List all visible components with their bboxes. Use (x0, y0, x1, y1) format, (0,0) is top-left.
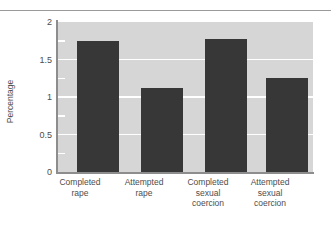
x-tick-line-1: Attempted (111, 177, 177, 188)
x-tick-line-2: sexual (237, 188, 303, 199)
bar-completed-rape (77, 41, 119, 172)
x-tick-line-3: coercion (175, 198, 241, 209)
x-tick-label-completed-rape: Completed rape (47, 177, 113, 198)
x-tick-line-2: rape (111, 188, 177, 199)
y-axis-title: Percentage (6, 67, 15, 137)
y-tick-label-0: 0 (6, 168, 52, 177)
x-axis-baseline (56, 172, 314, 174)
bar-chart-figure: 2 1.5 1 0.5 0 Percentage Completed rape … (0, 0, 331, 234)
x-tick-label-completed-sexual-coercion: Completed sexual coercion (175, 177, 241, 209)
x-tick-line-2: sexual (175, 188, 241, 199)
x-tick-line-1: Attempted (237, 177, 303, 188)
x-tick-label-attempted-sexual-coercion: Attempted sexual coercion (237, 177, 303, 209)
bar-completed-sexual-coercion (205, 39, 247, 173)
minor-tick-1-75 (58, 40, 65, 42)
bar-attempted-rape (141, 88, 183, 172)
plot-area (58, 22, 313, 172)
x-tick-line-3: coercion (237, 198, 303, 209)
y-tick-label-1-5: 1.5 (6, 56, 52, 65)
x-tick-label-attempted-rape: Attempted rape (111, 177, 177, 198)
minor-tick-1-25 (58, 78, 65, 80)
y-tick-label-2: 2 (6, 18, 52, 27)
minor-tick-0-25 (58, 153, 65, 155)
x-tick-line-1: Completed (47, 177, 113, 188)
minor-tick-0-75 (58, 115, 65, 117)
bar-attempted-sexual-coercion (266, 78, 308, 172)
x-tick-line-2: rape (47, 188, 113, 199)
x-tick-line-1: Completed (175, 177, 241, 188)
